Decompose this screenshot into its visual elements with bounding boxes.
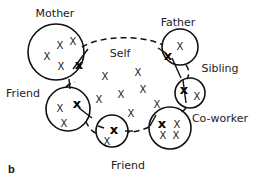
- node-friend-bottom: FriendxX: [96, 115, 145, 172]
- member-mark-icon: X: [57, 103, 64, 114]
- self-member-mark-icon: X: [154, 99, 161, 110]
- self-member-mark-icon: X: [135, 67, 142, 78]
- node-label: Friend: [6, 87, 40, 100]
- member-mark-icon: X: [160, 130, 167, 141]
- social-network-diagram: MotherxXXXXFatherxXSiblingxXCo-workerxXX…: [0, 0, 257, 179]
- member-mark-icon: X: [58, 61, 65, 72]
- self-member-mark-icon: X: [118, 89, 125, 100]
- node-label: Father: [161, 16, 196, 29]
- node-father: FatherxX: [161, 16, 198, 65]
- self-mark-icon: x: [180, 82, 189, 97]
- center-label-self: Self: [110, 47, 132, 60]
- self-mark-icon: x: [164, 48, 173, 63]
- node-label: Sibling: [201, 62, 238, 75]
- node-label: Friend: [111, 159, 145, 172]
- node-label: Co-worker: [192, 112, 249, 125]
- node-coworker: Co-workerxXXX: [149, 107, 249, 149]
- member-mark-icon: X: [174, 119, 181, 130]
- node-friend-left: FriendxXX: [6, 87, 90, 131]
- self-mark-icon: x: [158, 116, 167, 131]
- node-sibling: SiblingxX: [175, 62, 239, 108]
- self-member-mark-icon: X: [96, 94, 103, 105]
- member-mark-icon: X: [104, 136, 111, 147]
- figure-panel-label: b: [8, 163, 15, 175]
- node-circle: [149, 107, 191, 149]
- member-mark-icon: X: [70, 36, 77, 47]
- self-member-mark-icon: X: [102, 71, 109, 82]
- self-mark-icon: x: [75, 57, 84, 72]
- member-mark-icon: X: [57, 40, 64, 51]
- node-circle: [46, 87, 90, 131]
- member-mark-icon: X: [44, 51, 51, 62]
- member-mark-icon: X: [177, 41, 184, 52]
- self-member-mark-icon: X: [128, 108, 135, 119]
- member-mark-icon: X: [194, 91, 201, 102]
- self-mark-icon: x: [73, 96, 82, 111]
- node-label: Mother: [36, 7, 75, 20]
- self-member-mark-icon: X: [140, 84, 147, 95]
- member-mark-icon: X: [61, 118, 68, 129]
- member-mark-icon: X: [173, 130, 180, 141]
- self-mark-icon: x: [110, 122, 119, 137]
- node-mother: MotherxXXXX: [28, 7, 84, 80]
